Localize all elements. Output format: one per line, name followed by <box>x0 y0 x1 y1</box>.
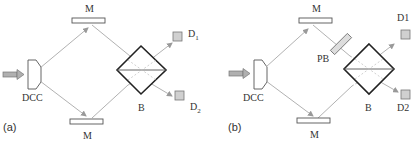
beamsplitter-label: B <box>365 102 372 113</box>
mirror-top-label: M <box>312 3 321 14</box>
panel-a: DCC M M B D1 D2 (a) <box>3 3 201 141</box>
phase-plate-icon <box>330 33 351 54</box>
detector-1-label: D1 <box>397 12 409 23</box>
input-beam-arrow-icon <box>229 69 250 79</box>
interferometer-figure: DCC M M B D1 D2 (a) <box>0 0 414 143</box>
detector-1-icon <box>173 32 182 41</box>
detector-2-icon <box>401 90 410 99</box>
panel-b-label: (b) <box>228 121 241 133</box>
mirror-bottom <box>70 119 103 124</box>
mirror-top <box>72 18 105 23</box>
mirror-bottom-label: M <box>310 129 319 140</box>
mirror-top <box>299 18 332 23</box>
detector-2-label: D2 <box>190 101 201 115</box>
input-beam-arrow-icon <box>3 70 24 80</box>
dcc-crystal-icon <box>254 60 267 89</box>
detector-1-label: D1 <box>188 28 199 42</box>
detector-2-label: D2 <box>397 102 409 113</box>
panel-b: DCC M M PB B D1 D2 (b) <box>228 3 410 140</box>
phase-plate-label: PB <box>317 53 330 64</box>
dcc-label: DCC <box>243 92 264 103</box>
dcc-label: DCC <box>22 92 43 103</box>
panel-a-label: (a) <box>3 121 16 133</box>
mirror-bottom-label: M <box>83 130 92 141</box>
mirror-bottom <box>297 118 330 123</box>
beamsplitter-label: B <box>138 102 145 113</box>
dcc-crystal-icon <box>28 60 41 89</box>
mirror-top-label: M <box>85 3 94 14</box>
detector-1-icon <box>401 30 410 39</box>
detector-2-icon <box>175 91 184 100</box>
